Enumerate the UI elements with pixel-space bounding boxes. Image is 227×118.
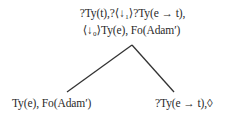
root-node-line1: ?Ty(t),?⟨↓₁⟩?Ty(e → t), (0, 6, 227, 20)
edge-root-to-right-child (132, 45, 174, 92)
left-child-node: Ty(e), Fo(Adam′) (12, 96, 91, 110)
right-child-label: ?Ty(e → t),◊ (155, 97, 213, 109)
right-child-node: ?Ty(e → t),◊ (155, 96, 213, 110)
edge-root-to-left-child (67, 45, 132, 92)
left-child-label: Ty(e), Fo(Adam′) (12, 97, 91, 109)
root-node-line2-text: ⟨↓₀⟩Ty(e), Fo(Adam′) (83, 24, 181, 36)
root-node-line1-text: ?Ty(t),?⟨↓₁⟩?Ty(e → t), (80, 7, 186, 19)
root-node-line2: ⟨↓₀⟩Ty(e), Fo(Adam′) (0, 23, 227, 37)
